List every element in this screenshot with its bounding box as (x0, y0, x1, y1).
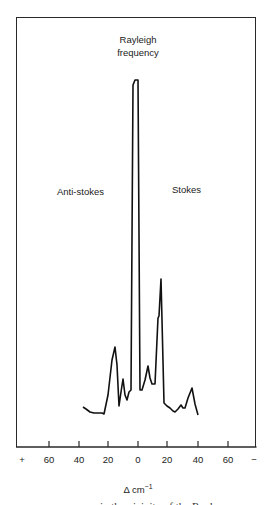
tick-label: 40 (193, 454, 204, 465)
spectrum-plot (0, 0, 274, 505)
tick-label: 20 (103, 454, 114, 465)
stokes-label: Stokes (172, 184, 201, 195)
caption-fragment: in the vicinity of the Rayl (100, 499, 274, 505)
x-axis-ticks (49, 441, 228, 447)
tick-label: 60 (44, 454, 55, 465)
x-axis-label-exponent: −1 (145, 483, 153, 490)
rayleigh-label-line1: Rayleigh (110, 33, 166, 46)
tick-label: 20 (162, 454, 173, 465)
axis-minus-sign: − (251, 454, 257, 465)
tick-label: 40 (74, 454, 85, 465)
x-axis-label: Δ cm−1 (123, 483, 152, 495)
tick-label: 0 (135, 454, 140, 465)
tick-label: 60 (223, 454, 234, 465)
rayleigh-label: Rayleigh frequency (110, 33, 166, 59)
anti-stokes-label: Anti-stokes (57, 186, 104, 197)
x-axis-label-base: Δ cm (123, 484, 144, 495)
axis-plus-sign: + (19, 454, 25, 465)
spectrum-trace (83, 80, 198, 415)
rayleigh-label-line2: frequency (110, 46, 166, 59)
